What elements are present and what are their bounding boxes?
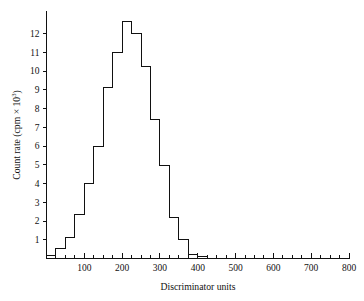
y-tick-label: 5 [35, 160, 40, 170]
x-tick-label: 700 [304, 263, 319, 273]
x-tick-label: 800 [342, 263, 357, 273]
y-axis-ticks [43, 34, 47, 240]
histogram-outline [47, 21, 208, 258]
x-tick-label: 200 [115, 263, 130, 273]
y-tick-label: 11 [30, 48, 39, 58]
x-tick-label: 300 [153, 263, 168, 273]
y-tick-label: 8 [35, 104, 40, 114]
histogram-chart: 123456789101112 100200300400500600700800… [0, 0, 364, 301]
y-tick-label: 2 [35, 216, 40, 226]
chart-canvas: 123456789101112 100200300400500600700800… [0, 0, 364, 301]
y-axis-tick-labels: 123456789101112 [30, 29, 40, 245]
y-axis-title: Count rate (cpm × 103) [10, 90, 23, 179]
y-tick-label: 12 [30, 29, 40, 39]
x-tick-label: 100 [77, 263, 92, 273]
y-tick-label: 9 [35, 85, 40, 95]
x-tick-label: 500 [228, 263, 243, 273]
y-tick-label: 1 [35, 235, 40, 245]
y-axis-title-tail: ) [11, 90, 23, 93]
y-axis-title-main: Count rate (cpm × 10 [11, 97, 23, 180]
y-tick-label: 3 [35, 198, 40, 208]
x-axis-tick-labels: 100200300400500600700800 [77, 263, 356, 273]
y-tick-label: 10 [30, 66, 40, 76]
y-tick-label: 4 [35, 179, 40, 189]
svg-text:Count rate (cpm × 103): Count rate (cpm × 103) [10, 90, 23, 179]
x-tick-label: 600 [266, 263, 281, 273]
histogram-bars [47, 21, 208, 258]
x-axis-title: Discriminator units [160, 281, 235, 292]
x-tick-label: 400 [191, 263, 206, 273]
y-tick-label: 7 [35, 123, 40, 133]
y-tick-label: 6 [35, 141, 40, 151]
